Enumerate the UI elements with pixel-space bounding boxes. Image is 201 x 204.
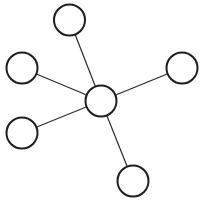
- node-left-upper: [7, 53, 38, 84]
- node-left-lower: [7, 118, 38, 149]
- node-top: [54, 5, 85, 36]
- nodes-group: [7, 5, 198, 197]
- node-center: [86, 86, 117, 117]
- node-right: [167, 53, 198, 84]
- node-bottom: [118, 166, 149, 197]
- star-graph-diagram: [0, 0, 201, 204]
